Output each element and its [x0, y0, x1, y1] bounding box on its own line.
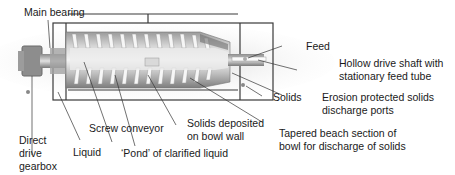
label-screw-conveyor: Screw conveyor: [89, 122, 164, 135]
solids-outlet-marker: [241, 83, 245, 87]
label-tapered-line1: Tapered beach section of: [279, 127, 396, 140]
label-main-bearing: Main bearing: [24, 6, 85, 19]
label-liquid: Liquid: [73, 146, 101, 159]
main-bearing: [50, 48, 66, 74]
feed-zone: [145, 58, 159, 66]
label-direct-line2: drive: [19, 147, 42, 160]
label-hollow-shaft-line2: stationary feed tube: [339, 70, 431, 83]
label-solids: Solids: [273, 91, 302, 104]
label-direct-line1: Direct: [19, 134, 46, 147]
feed-inlet-dot: [243, 57, 247, 61]
label-pond: ‘Pond’ of clarified liquid: [121, 147, 228, 160]
label-hollow-shaft-line1: Hollow drive shaft with: [339, 57, 443, 70]
gearbox: [18, 46, 42, 76]
label-solids-deposited-line1: Solids deposited: [187, 117, 264, 130]
label-tapered-line2: bowl for discharge of solids: [279, 140, 406, 153]
label-erosion-line1: Erosion protected solids: [322, 91, 434, 104]
liquid-outlet-marker: [26, 90, 30, 94]
label-erosion-line2: discharge ports: [322, 104, 394, 117]
label-direct-line3: gearbox: [19, 160, 57, 173]
label-feed: Feed: [306, 40, 330, 53]
label-solids-deposited-line2: on bowl wall: [187, 130, 244, 143]
decanter-centrifuge-diagram: Main bearing Feed Hollow drive shaft wit…: [0, 0, 455, 175]
